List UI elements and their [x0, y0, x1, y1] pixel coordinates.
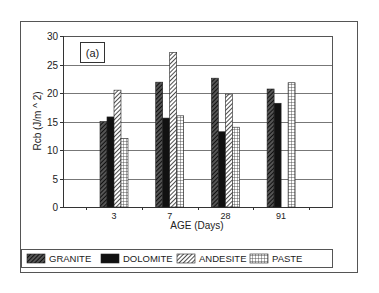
bar-granite: [267, 89, 274, 207]
x-tick-label: 3: [111, 211, 116, 221]
y-tick-label: 30: [47, 31, 59, 42]
legend-label-andesite: ANDESITE: [199, 253, 247, 264]
bar-granite: [156, 82, 163, 207]
bar-dolomite: [218, 132, 225, 207]
y-axis-label: Rcb (J/m ^ 2): [32, 91, 43, 150]
legend-swatch-dolomite: [101, 254, 119, 263]
legend-swatch-paste: [250, 254, 268, 263]
bar-paste: [288, 83, 295, 207]
legend-swatch-granite: [27, 254, 45, 263]
bar-dolomite: [107, 117, 114, 207]
y-tick-label: 15: [47, 117, 59, 128]
legend: GRANITEDOLOMITEANDESITEPASTE: [27, 253, 302, 264]
bar-paste: [232, 127, 239, 207]
bar-andesite: [225, 94, 232, 207]
y-tick-label: 0: [52, 202, 58, 213]
legend-label-paste: PASTE: [272, 253, 302, 264]
panel-label: (a): [86, 47, 99, 59]
y-tick-label: 5: [52, 174, 58, 185]
legend-swatch-andesite: [177, 254, 195, 263]
x-axis-label: AGE (Days): [170, 220, 223, 231]
x-tick-label: 91: [276, 211, 286, 221]
y-tick-label: 25: [47, 60, 59, 71]
bar-paste: [121, 139, 128, 207]
chart: 051015202530372891 (a) Rcb (J/m ^ 2) AGE…: [0, 0, 379, 293]
legend-label-dolomite: DOLOMITE: [123, 253, 173, 264]
bar-granite: [211, 78, 218, 207]
y-tick-label: 20: [47, 88, 59, 99]
bar-granite: [100, 122, 107, 208]
bar-andesite: [170, 53, 177, 207]
bar-paste: [177, 116, 184, 207]
outer-frame: [21, 22, 358, 273]
legend-label-granite: GRANITE: [49, 253, 91, 264]
bar-andesite: [114, 90, 121, 207]
bar-dolomite: [274, 103, 281, 207]
y-tick-label: 10: [47, 145, 59, 156]
bar-dolomite: [163, 118, 170, 207]
